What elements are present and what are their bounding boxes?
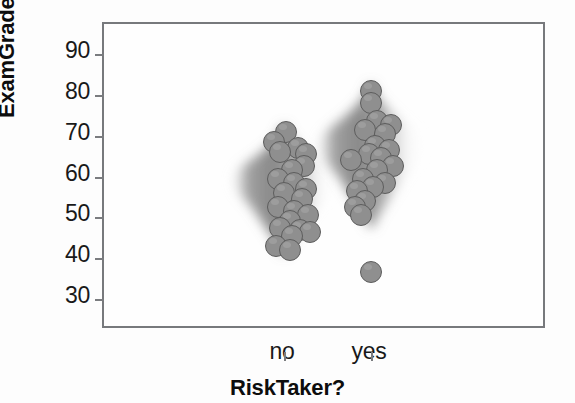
x-axis-tick bbox=[284, 352, 286, 361]
y-axis-tick-label: 80 bbox=[44, 78, 90, 105]
y-axis-tick bbox=[95, 177, 104, 179]
violin-density-layer bbox=[104, 24, 543, 326]
y-axis-tick bbox=[95, 136, 104, 138]
y-axis-tick-label: 90 bbox=[44, 37, 90, 64]
y-axis-tick bbox=[95, 258, 104, 260]
chart-page: ExamGrade 30405060708090 noyes RiskTaker… bbox=[0, 0, 575, 403]
y-axis-tick-label: 50 bbox=[44, 200, 90, 227]
y-axis-tick-label: 60 bbox=[44, 160, 90, 187]
x-axis-tick bbox=[371, 352, 373, 361]
x-axis-tick-label-yes: yes bbox=[324, 338, 414, 365]
x-axis-title: RiskTaker? bbox=[0, 375, 575, 401]
x-axis-tick-label-no: no bbox=[237, 338, 327, 365]
y-axis-tick bbox=[95, 54, 104, 56]
y-axis-tick bbox=[95, 217, 104, 219]
y-axis-tick-label: 40 bbox=[44, 241, 90, 268]
y-axis-tick bbox=[95, 299, 104, 301]
plot-frame bbox=[102, 22, 545, 328]
y-axis-tick-label: 30 bbox=[44, 282, 90, 309]
plot-area bbox=[104, 24, 543, 326]
y-axis-title: ExamGrade bbox=[0, 0, 20, 118]
y-axis-tick-label: 70 bbox=[44, 119, 90, 146]
y-axis-tick bbox=[95, 95, 104, 97]
data-point bbox=[279, 239, 301, 261]
